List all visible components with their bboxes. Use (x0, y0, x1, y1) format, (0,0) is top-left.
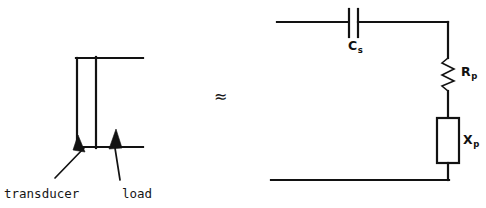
reactance-box (437, 118, 459, 163)
reactance-label: Xp (463, 132, 479, 147)
transducer-leader-line (55, 148, 84, 178)
transducer-label: transducer (4, 186, 79, 201)
resistor-zigzag (442, 58, 454, 91)
capacitor-label: Cs (348, 38, 362, 53)
capacitor-symbol: C (348, 38, 357, 53)
transducer-arrowhead (73, 135, 85, 152)
right-circuit-group (271, 9, 459, 180)
resistor-label: Rp (461, 64, 477, 79)
circuit-diagram-svg (0, 0, 486, 208)
left-schematic-group (55, 57, 143, 180)
load-leader-line (115, 148, 120, 180)
reactance-subscript: p (473, 139, 479, 149)
resistor-subscript: p (471, 71, 477, 81)
resistor-symbol: R (461, 64, 471, 79)
load-label: load (122, 186, 152, 201)
load-arrowhead (109, 129, 122, 149)
approximately-equal-symbol: ≈ (214, 89, 227, 105)
diagram-canvas: ≈ transducer load Cs Rp Xp (0, 0, 486, 208)
capacitor-subscript: s (358, 45, 363, 55)
reactance-symbol: X (463, 132, 473, 147)
